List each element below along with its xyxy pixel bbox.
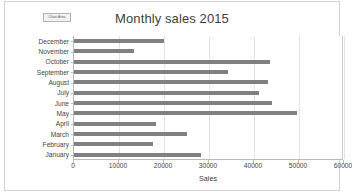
category-tick-mark (71, 124, 73, 125)
bar-row[interactable] (74, 98, 342, 108)
x-axis-tick-label: 20000 (154, 162, 172, 170)
bar-row[interactable] (74, 139, 342, 149)
category-axis-label: May (57, 110, 69, 117)
category-tick-mark (71, 52, 73, 53)
x-axis-tick-mark (208, 160, 209, 163)
bar[interactable] (74, 111, 297, 115)
x-axis-tick-mark (343, 160, 344, 163)
x-axis-tick-mark (118, 160, 119, 163)
x-axis-tick-mark (298, 160, 299, 163)
bar[interactable] (74, 153, 201, 157)
x-axis-tick-mark (73, 160, 74, 163)
bar[interactable] (74, 101, 272, 105)
x-axis-tick-label: 0 (71, 162, 75, 170)
category-axis-label: August (48, 79, 69, 86)
category-axis-label: February (43, 141, 69, 148)
category-tick-mark (71, 103, 73, 104)
category-tick-mark (71, 145, 73, 146)
bar-row[interactable] (74, 108, 342, 118)
bar-row[interactable] (74, 119, 342, 129)
category-axis-label: October (46, 58, 69, 65)
x-axis-tick-label: 40000 (244, 162, 262, 170)
category-axis-label: April (56, 120, 69, 127)
bar-row[interactable] (74, 77, 342, 87)
chart-frame[interactable]: Chart Area Monthly sales 2015 DecemberNo… (4, 1, 340, 191)
category-axis-label: September (37, 69, 69, 76)
bar[interactable] (74, 142, 153, 146)
bar-row[interactable] (74, 150, 342, 160)
bar-row[interactable] (74, 129, 342, 139)
bar-series[interactable] (74, 36, 342, 159)
category-tick-mark (71, 134, 73, 135)
category-tick-mark (71, 41, 73, 42)
category-axis-label: November (39, 48, 69, 55)
category-axis-label: March (51, 131, 69, 138)
bar[interactable] (74, 49, 134, 53)
category-axis-label: January (46, 151, 69, 158)
category-tick-mark (71, 93, 73, 94)
category-tick-mark (71, 62, 73, 63)
bar-row[interactable] (74, 57, 342, 67)
x-axis-title: Sales (73, 174, 343, 183)
bar-row[interactable] (74, 67, 342, 77)
x-axis-tick-label: 30000 (199, 162, 217, 170)
category-tick-mark (71, 83, 73, 84)
bar[interactable] (74, 39, 164, 43)
bar-row[interactable] (74, 36, 342, 46)
category-axis-label: December (39, 38, 69, 45)
plot-area[interactable] (73, 36, 343, 160)
bar[interactable] (74, 80, 268, 84)
bar[interactable] (74, 122, 156, 126)
x-axis-tick-label: 10000 (109, 162, 127, 170)
category-tick-mark (71, 155, 73, 156)
category-axis-label: June (55, 100, 69, 107)
x-axis-tick-label: 50000 (289, 162, 307, 170)
bar[interactable] (74, 60, 270, 64)
category-tick-mark (71, 114, 73, 115)
x-axis-tick-label: 60000 (334, 162, 352, 170)
gridline (344, 36, 345, 159)
bar[interactable] (74, 70, 228, 74)
bar[interactable] (74, 91, 259, 95)
bar[interactable] (74, 132, 187, 136)
chart-title: Monthly sales 2015 (5, 11, 339, 26)
bar-row[interactable] (74, 46, 342, 56)
bar-row[interactable] (74, 88, 342, 98)
x-axis-tick-mark (253, 160, 254, 163)
category-axis-label: July (57, 89, 69, 96)
plot-area-wrapper: DecemberNovemberOctoberSeptemberAugustJu… (73, 36, 343, 160)
x-axis-tick-mark (163, 160, 164, 163)
category-tick-mark (71, 72, 73, 73)
